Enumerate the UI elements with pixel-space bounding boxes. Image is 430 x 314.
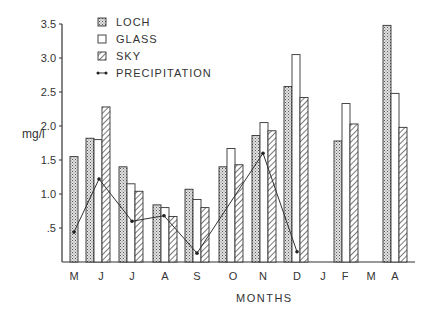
bar-sky	[268, 131, 276, 262]
precipitation-point	[72, 230, 76, 234]
legend-swatch-loch	[98, 18, 106, 26]
legend-swatch-glass	[98, 35, 106, 43]
chart: .51.01.52.02.53.03.5MJJASONDJFMA LOCHGLA…	[0, 0, 430, 314]
bar-loch	[153, 205, 161, 262]
bar-glass	[94, 140, 102, 262]
bar-glass	[391, 93, 399, 262]
bar-sky	[350, 124, 358, 262]
y-tick-label: 1.5	[41, 154, 56, 166]
bar-loch	[86, 138, 94, 262]
precipitation-point	[130, 219, 134, 223]
x-tick-label: M	[366, 270, 375, 282]
bar-sky	[399, 127, 407, 262]
bar-glass	[260, 123, 268, 262]
bar-loch	[252, 136, 260, 262]
legend-swatch-sky	[98, 52, 106, 60]
x-tick-label: M	[69, 270, 78, 282]
bar-sky	[201, 208, 209, 262]
precipitation-point	[295, 250, 299, 254]
x-tick-label: J	[129, 270, 135, 282]
precipitation-point	[97, 177, 101, 181]
x-tick-label: S	[193, 270, 200, 282]
y-axis-label: mg/l	[22, 127, 45, 141]
legend-label: LOCH	[116, 16, 151, 28]
legend-label: PRECIPITATION	[116, 67, 212, 79]
precipitation-point	[261, 151, 265, 155]
bar-glass	[342, 104, 350, 262]
bar-glass	[292, 55, 300, 262]
y-tick-label: 3.0	[41, 52, 56, 64]
bar-sky	[235, 165, 243, 262]
bar-loch	[284, 87, 292, 262]
bar-glass	[127, 184, 135, 262]
bar-loch	[70, 157, 78, 262]
x-tick-label: J	[98, 270, 104, 282]
x-tick-label: N	[259, 270, 267, 282]
x-tick-label: A	[161, 270, 169, 282]
x-tick-label: J	[320, 270, 326, 282]
x-tick-label: O	[229, 270, 238, 282]
precipitation-point	[162, 214, 166, 218]
precipitation-point	[195, 251, 199, 255]
y-tick-label: 3.5	[41, 18, 56, 30]
bar-loch	[383, 25, 391, 262]
x-tick-label: D	[293, 270, 301, 282]
bar-loch	[119, 167, 127, 262]
y-tick-label: 2.5	[41, 86, 56, 98]
legend-label: SKY	[116, 50, 141, 62]
y-tick-label: .5	[47, 222, 56, 234]
x-tick-label: F	[342, 270, 349, 282]
bar-sky	[300, 97, 308, 262]
bar-sky	[135, 191, 143, 262]
legend: LOCHGLASSSKYPRECIPITATION	[97, 16, 212, 79]
x-axis-label: MONTHS	[236, 292, 293, 304]
y-tick-label: 1.0	[41, 188, 56, 200]
legend-label: GLASS	[116, 33, 158, 45]
bar-loch	[334, 141, 342, 262]
x-tick-label: A	[391, 270, 399, 282]
bar-loch	[185, 189, 193, 262]
